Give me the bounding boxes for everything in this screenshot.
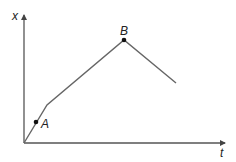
point-b-label: B [120,24,128,38]
y-axis-label: x [11,9,19,23]
point-b-marker [122,38,127,43]
point-a-marker [34,120,39,125]
position-time-graph: x t A B [0,0,236,162]
x-axis-label: t [220,146,224,160]
point-a-label: A [40,117,49,131]
